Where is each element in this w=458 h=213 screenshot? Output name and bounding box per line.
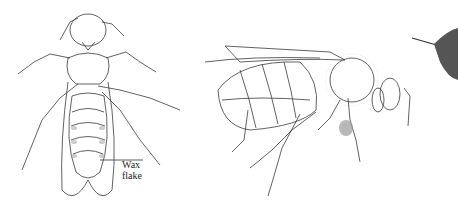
partial-hairy-bee <box>412 28 458 80</box>
pollen-basket-shading <box>339 120 353 136</box>
wax-flake-shading <box>71 126 105 158</box>
wax-label-line1: Wax <box>122 160 140 170</box>
bee-illustration <box>0 0 458 213</box>
wax-label-line2: flake <box>122 171 142 181</box>
lateral-view-bee <box>205 46 410 196</box>
ventral-view-bee <box>18 14 180 196</box>
thorax-hair-shading <box>326 54 378 106</box>
